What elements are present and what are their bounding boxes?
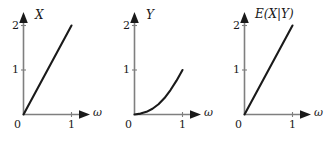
y-axis-arrowhead — [240, 12, 249, 23]
panel-exy-y-axis-label: E(X|Y) — [255, 8, 294, 20]
series-line-exy — [245, 26, 293, 115]
panel-x-xtick-label-1: 1 — [68, 119, 75, 130]
panel-exy-x-axis-label: ω — [314, 107, 323, 118]
series-line-x — [24, 26, 72, 115]
x-axis-arrowhead — [190, 110, 201, 119]
panel-x-x-axis-label: ω — [93, 107, 102, 118]
panel-y: Y 2 1 0 1 ω — [111, 0, 222, 147]
panel-exy-ytick-label-2: 2 — [233, 20, 240, 31]
panel-y-x-axis-label: ω — [204, 107, 213, 118]
three-panel-figure: X 2 1 0 1 ω Y 2 1 0 1 ω — [0, 0, 332, 147]
panel-y-ytick-label-1: 1 — [123, 64, 130, 75]
x-axis-arrowhead — [300, 110, 311, 119]
panel-y-origin-label: 0 — [125, 119, 132, 130]
panel-x-ytick-label-2: 2 — [12, 20, 19, 31]
panel-conditional-expectation: E(X|Y) 2 1 0 1 ω — [221, 0, 332, 147]
x-axis-arrowhead — [79, 110, 90, 119]
panel-y-ytick-label-2: 2 — [123, 20, 130, 31]
series-line-y — [135, 70, 183, 115]
panel-x-origin-label: 0 — [14, 119, 21, 130]
panel-y-y-axis-label: Y — [146, 9, 154, 21]
panel-exy-origin-label: 0 — [235, 119, 242, 130]
panel-exy-ytick-label-1: 1 — [233, 64, 240, 75]
panel-x-ytick-label-1: 1 — [12, 64, 19, 75]
panel-y-xtick-label-1: 1 — [179, 119, 186, 130]
panel-x-y-axis-label: X — [35, 9, 44, 21]
y-axis-arrowhead — [19, 12, 28, 23]
y-axis-arrowhead — [130, 12, 139, 23]
panel-x: X 2 1 0 1 ω — [0, 0, 111, 147]
panel-exy-xtick-label-1: 1 — [289, 119, 296, 130]
